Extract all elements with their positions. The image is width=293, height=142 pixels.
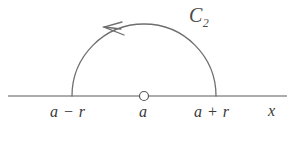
contour-diagram-figure: a − r a a + r x C2 [0,0,293,142]
contour-label-c2: C2 [189,5,209,29]
tick-label-a-plus-r: a + r [194,104,230,120]
tick-label-a-text: a [139,103,148,120]
tick-label-a-minus-r-text: a − r [50,103,86,120]
tick-label-a-plus-r-text: a + r [194,103,230,120]
direction-arrowhead [104,22,124,35]
semicircle-arc [72,24,216,96]
tick-label-a-minus-r: a − r [50,104,86,120]
diagram-canvas [0,0,293,142]
contour-label-subscript: 2 [203,16,209,30]
x-axis-label-text: x [268,102,275,119]
center-point-marker [140,92,149,101]
contour-label-letter: C [189,4,202,26]
tick-label-a: a [139,104,148,120]
x-axis-label: x [268,103,275,119]
